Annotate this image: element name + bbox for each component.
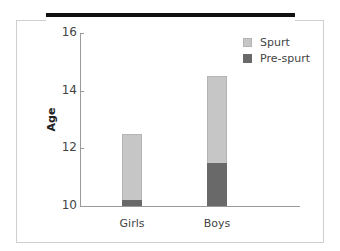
- legend-swatch-pre-spurt: [243, 54, 252, 63]
- y-axis-title: Age: [45, 107, 58, 133]
- y-tick-label: 16: [47, 26, 77, 38]
- x-category-label: Girls: [107, 217, 157, 230]
- bar-boys: [207, 76, 227, 206]
- y-tick-label: 10: [47, 199, 77, 211]
- legend-swatch-spurt: [243, 38, 252, 47]
- bar-segment-pre-spurt: [122, 200, 142, 206]
- legend-label: Spurt: [260, 36, 290, 49]
- bar-segment-spurt: [122, 134, 142, 200]
- y-tick-label: 12: [47, 141, 77, 153]
- x-category-label: Boys: [192, 217, 242, 230]
- legend-item-pre-spurt: Pre-spurt: [243, 53, 310, 63]
- frame-top-edge: [295, 20, 324, 21]
- y-tick: [80, 206, 84, 207]
- legend-item-spurt: Spurt: [243, 37, 290, 47]
- y-tick-label: 14: [47, 84, 77, 96]
- bar-segment-spurt: [207, 76, 227, 163]
- legend-label: Pre-spurt: [260, 52, 310, 65]
- y-axis: [80, 33, 81, 206]
- title-rule: [46, 13, 295, 17]
- y-tick: [80, 33, 84, 34]
- x-axis: [80, 206, 300, 207]
- frame-top-edge: [16, 20, 46, 21]
- y-tick: [80, 91, 84, 92]
- y-tick: [80, 148, 84, 149]
- bar-segment-pre-spurt: [207, 163, 227, 206]
- bar-girls: [122, 134, 142, 206]
